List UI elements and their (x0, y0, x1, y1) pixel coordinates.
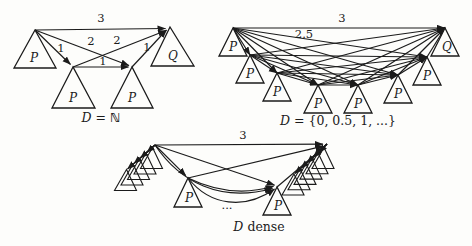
fan-edge (295, 144, 327, 174)
triangle-stack-right (282, 144, 334, 195)
p-label: P (393, 87, 403, 101)
caption-eq: = (96, 110, 106, 125)
figure-d-dense: P P ... 3 Ddense (115, 128, 335, 234)
p-label: P (422, 69, 432, 83)
p-label: P (68, 91, 78, 105)
p-label: P (245, 67, 255, 81)
p-label: P (273, 199, 283, 213)
caption-rest: dense (247, 219, 284, 234)
edge-a-b (35, 29, 166, 31)
ellipsis: ... (222, 198, 233, 212)
caption-d: D (81, 110, 92, 125)
caption-d: D (279, 113, 290, 128)
caption-d: D (232, 219, 243, 234)
edge-weight: 1 (143, 40, 150, 54)
curve-left-to-p2 (155, 145, 273, 193)
edge-left-to-p2 (155, 145, 275, 185)
fan-edge (128, 145, 156, 169)
q-label: Q (168, 49, 178, 63)
graph-edge (277, 73, 318, 85)
figure-d-nat: P Q P P 3 1 2 2 1 1 D=ℕ (14, 11, 194, 125)
caption-set: ℕ (110, 110, 120, 125)
edge-weight: 2 (113, 33, 120, 47)
figure-d-half-steps: PPPPPPPQ 3 2.5 D= {0, 0.5, 1, ...} (219, 11, 459, 128)
edge-weight: 3 (97, 11, 104, 25)
edge-weight: 1 (57, 41, 64, 55)
edge-weight: 3 (338, 11, 345, 25)
p-label: P (184, 191, 194, 205)
graph-edge (233, 28, 427, 57)
figure-page: P Q P P 3 1 2 2 1 1 D=ℕ PPPPPPPQ 3 2.5 D… (0, 0, 472, 246)
edge-weight: 2.5 (295, 27, 313, 41)
edge-weight: 2 (87, 34, 94, 48)
caption-d-half-steps: D= {0, 0.5, 1, ...} (279, 113, 396, 128)
p-label: P (228, 40, 238, 54)
p-label: P (29, 51, 39, 65)
complete-graph-edges (233, 28, 445, 85)
caption-rest: = {0, 0.5, 1, ...} (294, 113, 396, 128)
edge-weight: 3 (239, 128, 246, 142)
q-label: Q (442, 40, 452, 54)
p-label: P (313, 97, 323, 111)
figure-canvas: P Q P P 3 1 2 2 1 1 D=ℕ PPPPPPPQ 3 2.5 D… (0, 0, 472, 246)
edge-left-right (155, 144, 323, 145)
triangle-stack-left (115, 145, 163, 191)
graph-edge (233, 28, 398, 75)
edge-weight: 1 (99, 54, 106, 68)
p-label: P (353, 97, 363, 111)
p-label: P (272, 85, 282, 99)
complete-graph-triangles: PPPPPPPQ (219, 28, 459, 113)
caption-d-nat: D=ℕ (81, 110, 121, 125)
p-label: P (127, 91, 137, 105)
caption-d-dense: Ddense (232, 219, 284, 234)
